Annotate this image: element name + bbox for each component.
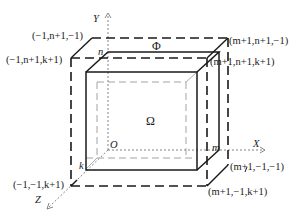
diagram-canvas: Y X Z O Ω Φ n m k (−1,n+1,−1) (−1,n+1,k+… — [0, 0, 295, 215]
index-k-label: k — [79, 161, 84, 172]
y-axis-label: Y — [93, 14, 99, 25]
index-n-label: n — [98, 47, 103, 58]
region-omega-label: Ω — [146, 115, 155, 127]
corner-top-front-left: (−1,n+1,k+1) — [6, 55, 62, 66]
index-m-label: m — [212, 143, 220, 154]
corner-bottom-front-right: (m+1,−1,k+1) — [208, 187, 267, 198]
corner-bottom-back-right: (m+1,−1,−1) — [230, 162, 284, 173]
corner-top-back-left: (−1,n+1,−1) — [32, 31, 83, 42]
inner-box-omega — [86, 52, 219, 170]
corner-bottom-front-left: (−1,−1,k+1) — [13, 180, 64, 191]
inner-hidden-edges — [86, 82, 197, 158]
region-phi-label: Φ — [152, 40, 161, 52]
x-axis-label: X — [253, 139, 259, 150]
corner-top-front-right: (m+1,n+1,k+1) — [210, 57, 274, 68]
origin-label: O — [110, 140, 118, 151]
corner-top-back-right: (m+1,n+1,−1) — [229, 36, 288, 47]
inner-hidden-diagonals — [86, 72, 197, 169]
z-axis-label: Z — [35, 195, 41, 206]
